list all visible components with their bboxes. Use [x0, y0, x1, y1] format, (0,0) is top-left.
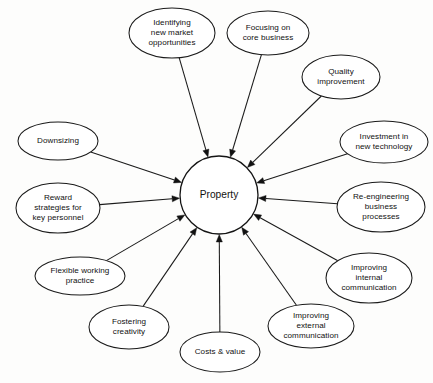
- node-label: Identifyingnew marketopportunities: [149, 19, 196, 47]
- node-investment-in-new-technology[interactable]: Investment innew technology: [340, 121, 428, 163]
- connector-identifying-new-market-opportunities: [179, 58, 209, 157]
- node-reward-strategies-for-key-personnel[interactable]: Rewardstrategies forkey personnel: [16, 183, 100, 233]
- node-label-line: processes: [362, 212, 399, 221]
- node-label-line: core business: [243, 33, 294, 42]
- connector-line: [219, 242, 220, 332]
- connector-line: [260, 218, 338, 261]
- connector-line: [91, 152, 175, 180]
- arrow-head-icon: [190, 228, 197, 236]
- node-identifying-new-market-opportunities[interactable]: Identifyingnew marketopportunities: [129, 8, 215, 58]
- node-label-line: practice: [66, 276, 95, 285]
- node-label: Investment innew technology: [356, 132, 414, 151]
- arrow-head-icon: [173, 177, 181, 183]
- node-fostering-creativity[interactable]: Fosteringcreativity: [89, 305, 169, 349]
- connector-line: [179, 58, 206, 150]
- node-label: Focusing oncore business: [243, 23, 294, 42]
- node-flexible-working-practice[interactable]: Flexible workingpractice: [35, 257, 125, 295]
- node-improving-internal-communication[interactable]: Improvinginternalcommunication: [326, 253, 412, 303]
- node-label-line: Improving: [293, 312, 329, 321]
- node-downsizing[interactable]: Downsizing: [18, 122, 98, 160]
- connector-improving-external-communication: [242, 227, 297, 305]
- arrow-head-icon: [242, 227, 249, 235]
- connector-improving-internal-communication: [254, 214, 338, 261]
- node-label-line: new technology: [356, 142, 414, 151]
- node-focusing-on-core-business[interactable]: Focusing oncore business: [227, 11, 309, 55]
- node-label-line: Improving: [351, 264, 387, 273]
- node-label-line: internal: [356, 273, 383, 282]
- arrow-head-icon: [172, 196, 180, 202]
- node-label-line: business: [365, 202, 397, 211]
- connector-quality-improvement: [247, 96, 321, 168]
- connector-line: [264, 154, 348, 181]
- node-label-line: opportunities: [149, 38, 196, 47]
- node-label-line: Focusing on: [246, 23, 291, 32]
- node-label-line: new market: [151, 28, 194, 37]
- node-label-line: Re-engineering: [353, 193, 409, 202]
- arrow-head-icon: [254, 214, 262, 220]
- node-improving-external-communication[interactable]: Improvingexternalcommunication: [268, 304, 354, 348]
- node-label-line: improvement: [317, 77, 365, 86]
- arrow-head-icon: [216, 235, 222, 243]
- connector-flexible-working-practice: [106, 215, 184, 261]
- node-label-line: creativity: [113, 327, 146, 336]
- arrow-head-icon: [257, 178, 265, 184]
- node-label-line: Costs & value: [195, 347, 246, 356]
- node-label-line: strategies for: [34, 203, 82, 212]
- connector-re-engineering-business-processes: [258, 195, 337, 203]
- node-label-line: Reward: [44, 194, 72, 203]
- radial-diagram: Identifyingnew marketopportunitiesFocusi…: [0, 0, 433, 383]
- node-label: Costs & value: [195, 347, 246, 356]
- node-label-line: Quality: [328, 67, 354, 76]
- connector-focusing-on-core-business: [230, 55, 262, 157]
- node-label-line: Downsizing: [37, 136, 79, 145]
- connector-line: [143, 234, 192, 307]
- connector-line: [233, 55, 262, 150]
- node-label: Fosteringcreativity: [112, 317, 146, 336]
- node-label-line: Investment in: [360, 132, 409, 141]
- hub-label: Property: [200, 189, 239, 200]
- connector-investment-in-new-technology: [257, 154, 348, 184]
- connector-line: [100, 199, 173, 205]
- arrow-head-icon: [230, 149, 236, 157]
- node-quality-improvement[interactable]: Qualityimprovement: [302, 55, 380, 99]
- node-re-engineering-business-processes[interactable]: Re-engineeringbusinessprocesses: [337, 182, 425, 232]
- node-label-line: communication: [283, 331, 338, 340]
- arrow-head-icon: [258, 195, 266, 201]
- node-costs-and-value[interactable]: Costs & value: [180, 332, 260, 372]
- diagram-canvas: Identifyingnew marketopportunitiesFocusi…: [0, 0, 433, 383]
- hub-node[interactable]: Property: [180, 156, 258, 234]
- arrow-head-icon: [177, 215, 185, 221]
- node-label: Downsizing: [37, 136, 79, 145]
- connector-line: [253, 96, 322, 162]
- connector-reward-strategies-for-key-personnel: [100, 196, 180, 205]
- arrow-head-icon: [203, 149, 209, 157]
- connector-fostering-creativity: [143, 228, 197, 307]
- node-label-line: key personnel: [32, 213, 83, 222]
- connector-downsizing: [91, 152, 182, 183]
- node-label-line: Identifying: [153, 19, 190, 28]
- node-label-line: communication: [341, 283, 396, 292]
- connector-line: [246, 233, 296, 305]
- node-label-line: Fostering: [112, 317, 146, 326]
- connector-line: [106, 219, 178, 261]
- connector-line: [266, 198, 338, 203]
- node-label-line: Flexible working: [51, 266, 110, 275]
- node-label-line: external: [296, 321, 325, 330]
- connector-costs-and-value: [216, 235, 222, 333]
